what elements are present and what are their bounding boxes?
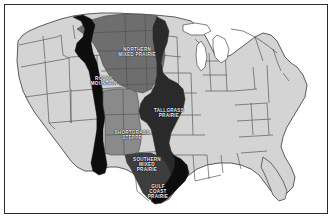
shortgrass-steppe-shape <box>103 89 141 155</box>
figure-root: ROCKY MOUNTAIN NORTHERN MIXED PRAIRIE TA… <box>0 0 332 218</box>
map-frame: ROCKY MOUNTAIN NORTHERN MIXED PRAIRIE TA… <box>4 4 328 214</box>
region-shortgrass-steppe <box>103 89 141 155</box>
lake-superior <box>183 23 211 35</box>
us-map-graphic <box>5 5 327 213</box>
